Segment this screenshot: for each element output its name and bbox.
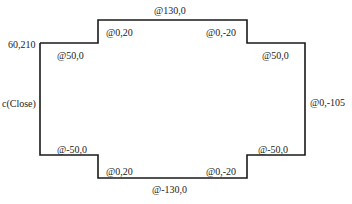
label-bottom-left-left: @-50,0 xyxy=(57,145,87,155)
label-top-left-right: @50,0 xyxy=(57,51,84,61)
label-right-side: @0,-105 xyxy=(310,98,345,108)
label-bottom-left-up: @0,20 xyxy=(106,167,133,177)
label-bottom-right-left: @-50,0 xyxy=(258,145,288,155)
polyline-diagram: @130,0 60,210 @0,20 @0,-20 @50,0 @50,0 c… xyxy=(0,0,352,204)
label-top-right-down: @0,-20 xyxy=(206,28,236,38)
outline-shape xyxy=(0,0,352,204)
label-close: c(Close) xyxy=(2,99,36,109)
label-bottom: @-130,0 xyxy=(152,185,187,195)
label-top: @130,0 xyxy=(154,6,186,16)
label-top-right-right: @50,0 xyxy=(262,51,289,61)
label-start-point: 60,210 xyxy=(8,40,36,50)
label-top-left-up: @0,20 xyxy=(106,28,133,38)
label-bottom-right-down: @0,-20 xyxy=(206,167,236,177)
